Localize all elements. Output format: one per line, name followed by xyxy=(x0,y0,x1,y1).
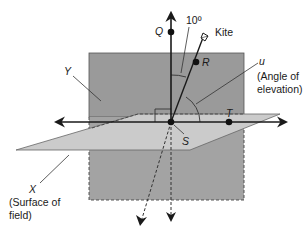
label-angle-10: 10º xyxy=(186,14,202,26)
label-kite: Kite xyxy=(215,26,233,38)
arrowhead-down-string xyxy=(136,215,147,226)
label-s: S xyxy=(182,135,189,147)
kite-elevation-diagram: Q R S T 10º Kite u (Angle of elevation) … xyxy=(0,0,308,237)
label-surface-of: (Surface of xyxy=(9,196,60,208)
point-t xyxy=(226,119,233,126)
label-y: Y xyxy=(64,65,72,77)
point-s xyxy=(168,119,175,126)
label-r: R xyxy=(202,56,210,68)
point-q xyxy=(168,29,175,36)
label-u: u xyxy=(259,55,265,67)
label-angle-of: (Angle of xyxy=(257,70,299,82)
label-elevation: elevation) xyxy=(257,83,303,95)
leader-x xyxy=(40,155,69,183)
label-field: field) xyxy=(9,209,32,221)
point-r xyxy=(193,59,200,66)
label-q: Q xyxy=(155,25,163,37)
label-x: X xyxy=(28,183,37,195)
